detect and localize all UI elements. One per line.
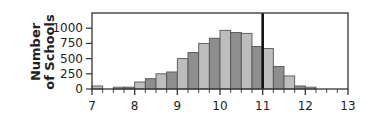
y-axis-label-line-1: Number (28, 22, 43, 81)
histogram-bar (167, 72, 178, 89)
histogram-bar (145, 79, 156, 89)
x-tick-label: 9 (174, 99, 182, 113)
histogram-bar (177, 59, 188, 89)
histogram-bar (273, 67, 284, 89)
histogram-bar (135, 82, 146, 89)
histogram-bar (252, 46, 263, 89)
x-axis: 78910111213 (88, 89, 355, 113)
histogram-bar (156, 74, 167, 89)
histogram-bar (209, 38, 220, 89)
histogram-bar (231, 32, 242, 89)
histogram-bar (284, 76, 295, 89)
histogram-bar (188, 53, 199, 89)
histogram-bar (199, 43, 210, 89)
histogram-bar (220, 30, 231, 89)
x-tick-label: 13 (340, 99, 355, 113)
x-tick-label: 11 (255, 99, 270, 113)
y-tick-label: 0 (75, 82, 83, 96)
y-axis: 02505007501000 (52, 21, 92, 96)
bar-series (92, 30, 316, 89)
histogram-bar (263, 49, 274, 89)
histogram-bar (241, 33, 252, 89)
y-tick-label: 750 (60, 36, 83, 50)
x-tick-label: 10 (212, 99, 227, 113)
y-tick-label: 1000 (52, 21, 83, 35)
x-tick-label: 12 (298, 99, 313, 113)
x-tick-label: 7 (88, 99, 96, 113)
x-tick-label: 8 (131, 99, 139, 113)
histogram-chart: Number of Schools 02505007501000 7891011… (0, 0, 370, 123)
y-tick-label: 250 (60, 67, 83, 81)
y-tick-label: 500 (60, 52, 83, 66)
